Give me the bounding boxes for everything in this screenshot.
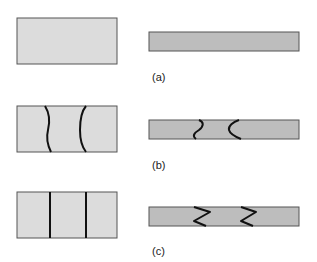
panel-c: [17, 192, 299, 238]
diagram-canvas: [0, 0, 317, 262]
panel-c-side-view: [149, 207, 299, 226]
panel-a-label: (a): [152, 71, 165, 83]
panel-b-plan-view: [17, 106, 117, 152]
panel-b-label: (b): [152, 159, 165, 171]
panel-a: [17, 18, 299, 64]
panel-c-plan-view: [17, 192, 117, 238]
panel-a-plan-view: [17, 18, 117, 64]
panel-c-label: (c): [152, 245, 165, 257]
panel-a-side-view: [149, 32, 299, 51]
panel-b: [17, 106, 299, 152]
panel-b-side-view: [149, 120, 299, 139]
